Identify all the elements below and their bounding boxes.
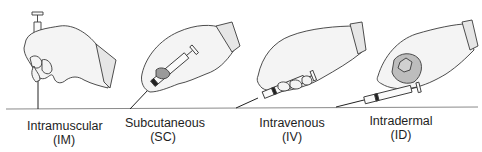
route-name: Subcutaneous [125, 116, 201, 130]
route-name: Intramuscular [27, 119, 101, 133]
im-hand-syringe-icon [24, 12, 116, 109]
route-name: Intradermal [368, 114, 434, 128]
route-abbr: (IV) [258, 130, 326, 144]
route-label-id: Intradermal (ID) [368, 114, 434, 142]
route-label-iv: Intravenous (IV) [258, 116, 326, 144]
skin-surface-line [6, 107, 478, 109]
route-abbr: (ID) [368, 128, 434, 142]
route-abbr: (IM) [27, 133, 101, 147]
sc-hand-syringe-icon [130, 22, 240, 109]
route-label-sc: Subcutaneous (SC) [125, 116, 201, 144]
injection-routes-diagram: Intramuscular (IM) Subcutaneous (SC) Int… [0, 0, 482, 152]
route-label-im: Intramuscular (IM) [27, 119, 101, 147]
route-name: Intravenous [258, 116, 326, 130]
route-abbr: (SC) [125, 130, 201, 144]
iv-hand-syringe-icon [236, 22, 366, 108]
